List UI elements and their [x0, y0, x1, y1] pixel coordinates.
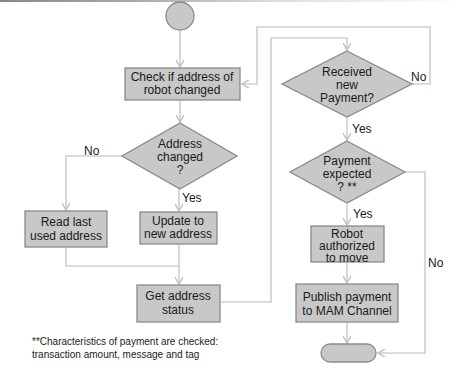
received-payment-line2: new — [336, 78, 358, 92]
flowchart-canvas: Check if address of robot changed Addres… — [0, 0, 462, 381]
edge-read-merge — [66, 248, 179, 266]
footnote-line2: transaction amount, message and tag — [32, 348, 262, 361]
address-yes-label: Yes — [182, 191, 202, 205]
address-changed-line2: changed — [157, 150, 203, 164]
address-no-label: No — [84, 144, 100, 158]
publish-payment-line1: Publish payment — [303, 290, 392, 304]
address-changed-line3: ? — [177, 163, 184, 177]
update-address-line2: new address — [144, 227, 212, 241]
read-last-line2: used address — [30, 229, 102, 243]
received-no-label: No — [411, 70, 427, 84]
edge-address-no — [66, 156, 122, 209]
footnote-line1: **Characteristics of payment are checked… — [32, 335, 262, 348]
get-status-line2: status — [162, 303, 194, 317]
payment-expected-line1: Payment — [323, 154, 371, 168]
check-address-line2: robot changed — [144, 83, 221, 97]
expected-yes-label: Yes — [353, 207, 373, 221]
update-address-line1: Update to — [152, 214, 204, 228]
start-node — [166, 2, 194, 30]
address-changed-line1: Address — [158, 137, 202, 151]
check-address-line1: Check if address of — [131, 70, 234, 84]
received-payment-line1: Received — [322, 65, 372, 79]
payment-expected-line3: ? ** — [337, 180, 357, 194]
payment-expected-line2: expected — [323, 167, 372, 181]
received-payment-line3: Payment? — [320, 91, 374, 105]
received-yes-label: Yes — [352, 122, 372, 136]
end-node — [321, 344, 376, 362]
robot-authorized-line3: to move — [326, 251, 369, 265]
publish-payment-line2: to MAM Channel — [302, 304, 391, 318]
edge-expected-no — [379, 172, 425, 353]
read-last-line1: Read last — [41, 215, 92, 229]
get-status-line1: Get address — [145, 289, 210, 303]
expected-no-label: No — [428, 256, 444, 270]
footnote: **Characteristics of payment are checked… — [32, 335, 262, 361]
